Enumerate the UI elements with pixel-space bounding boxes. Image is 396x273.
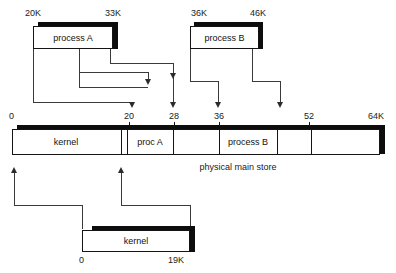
segment-divider-20	[127, 130, 128, 154]
axis-tick-36	[219, 122, 220, 127]
process-b-limit-connector-v1	[252, 49, 253, 81]
process-a-limit-connector-h1	[110, 63, 173, 64]
figure-caption: physical main store	[199, 163, 276, 172]
axis-tick-20	[129, 122, 130, 127]
segment-divider-46	[277, 130, 278, 154]
memory-relocation-diagram: 20K 33K process A 36K 46K process B 0 20…	[0, 0, 396, 273]
process-a-box: process A	[33, 26, 113, 49]
process-a-mid-connector-v2	[148, 72, 149, 80]
kernel-label: kernel	[83, 237, 189, 246]
process-b-base-arrow	[215, 102, 221, 108]
process-b-label: process B	[191, 33, 258, 42]
segment-label-proc-a: proc A	[137, 138, 163, 147]
process-a-base-label: 20K	[25, 9, 41, 18]
axis-label-52: 52	[304, 112, 314, 121]
segment-divider-28	[173, 130, 174, 154]
segment-label-process-b: process B	[228, 138, 268, 147]
axis-tick-52	[309, 122, 310, 127]
process-b-limit-connector-h1	[252, 81, 280, 82]
process-b-box: process B	[190, 26, 259, 49]
process-a-limit-connector-v1	[110, 49, 111, 63]
process-a-base-arrow	[129, 102, 135, 108]
kernel-base-connector-v2	[82, 205, 83, 229]
process-a-limit-label: 33K	[105, 9, 121, 18]
process-b-limit-label: 46K	[250, 9, 266, 18]
segment-label-kernel: kernel	[54, 138, 79, 147]
kernel-limit-connector-h1	[121, 205, 190, 206]
process-a-limit-arrow-mid	[170, 73, 176, 79]
process-a-mid-connector-h2	[79, 72, 148, 73]
process-b-limit-arrow	[277, 102, 283, 108]
kernel-base-connector-v1	[14, 173, 15, 205]
axis-tick-28	[174, 122, 175, 127]
axis-label-0: 0	[9, 112, 14, 121]
process-a-limit-arrow	[170, 102, 176, 108]
process-a-mid-connector-h1	[79, 87, 148, 88]
process-a-label: process A	[34, 33, 112, 42]
process-a-mid-connector-v1	[79, 49, 80, 87]
kernel-base-label: 0	[79, 256, 84, 265]
process-b-limit-connector-v2	[280, 81, 281, 102]
process-b-base-label: 36K	[191, 9, 207, 18]
process-b-base-connector-h1	[190, 81, 218, 82]
axis-label-64K: 64K	[368, 112, 384, 121]
process-a-base-connector-v1	[33, 49, 34, 102]
kernel-base-connector-h1	[14, 205, 82, 206]
axis-label-20: 20	[124, 112, 134, 121]
kernel-limit-connector-v1	[121, 173, 122, 205]
kernel-box: kernel	[82, 230, 190, 252]
segment-divider-19	[121, 130, 122, 154]
process-b-base-connector-v1	[190, 49, 191, 81]
axis-label-36: 36	[214, 112, 224, 121]
process-a-limit-connector-v2	[173, 63, 174, 102]
process-b-base-connector-v2	[218, 81, 219, 102]
kernel-limit-label: 19K	[168, 256, 184, 265]
axis-label-28: 28	[169, 112, 179, 121]
segment-divider-52	[311, 130, 312, 154]
segment-divider-36	[219, 130, 220, 154]
process-a-base-connector-h1	[33, 102, 132, 103]
